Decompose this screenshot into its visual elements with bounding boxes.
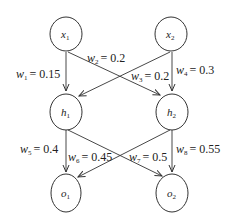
node-h2: h2 — [156, 94, 188, 130]
weight-label-w8: w8= 0.55 — [176, 142, 220, 157]
node-x1: x1 — [50, 17, 82, 51]
node-h1: h1 — [50, 94, 82, 130]
neural-network-diagram: x1 x2 h1 h2 o1 o2 w1= 0.15 w2= 0.2 w3= 0… — [0, 0, 228, 224]
weight-label-w5: w5= 0.4 — [20, 142, 58, 157]
weight-label-w6: w6= 0.45 — [68, 150, 112, 165]
weight-label-w7: w7= 0.5 — [129, 150, 167, 165]
weight-label-w2: w2= 0.2 — [87, 51, 125, 66]
node-o1: o1 — [51, 174, 81, 212]
node-x2: x2 — [155, 17, 187, 51]
weight-label-w1: w1= 0.15 — [16, 67, 60, 82]
node-o2: o2 — [156, 174, 188, 212]
weight-label-w4: w4= 0.3 — [176, 63, 214, 78]
weight-label-w3: w3= 0.2 — [131, 69, 169, 84]
